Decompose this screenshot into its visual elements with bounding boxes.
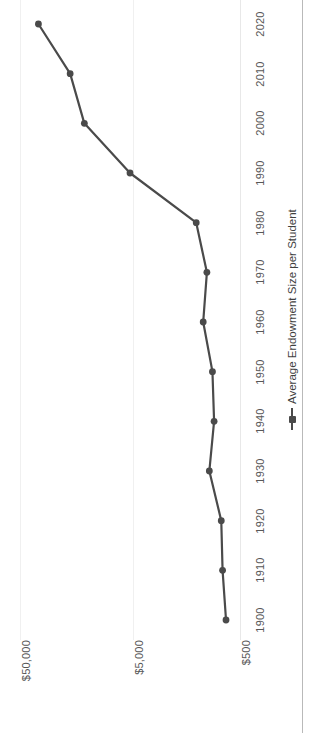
series-polyline — [38, 24, 226, 620]
data-point — [35, 21, 42, 28]
data-point — [218, 517, 225, 524]
data-point — [127, 170, 134, 177]
data-point — [67, 70, 74, 77]
data-point — [200, 319, 207, 326]
data-point — [211, 418, 218, 425]
category-tick-label-1960: 1960 — [254, 309, 266, 334]
value-tick-label-500: $500 — [240, 640, 252, 665]
category-tick-label-1980: 1980 — [254, 210, 266, 235]
category-tick-label-1900: 1900 — [254, 607, 266, 632]
value-axis-labels: $50,000 $5,000 $500 — [0, 640, 260, 710]
data-point — [223, 617, 230, 624]
legend-item-label: Average Endowment Size per Student — [286, 209, 298, 404]
value-tick-label-50000: $50,000 — [20, 640, 32, 681]
line-marker-icon — [287, 408, 297, 430]
chart-frame-border — [302, 0, 303, 733]
category-tick-label-1970: 1970 — [254, 260, 266, 285]
category-tick-label-2020: 2020 — [254, 11, 266, 36]
series-line-layer — [0, 0, 248, 640]
data-point — [203, 269, 210, 276]
category-tick-label-2000: 2000 — [254, 111, 266, 136]
category-tick-label-1940: 1940 — [254, 409, 266, 434]
data-point — [206, 468, 213, 475]
plot-area — [0, 0, 248, 640]
category-tick-label-1990: 1990 — [254, 160, 266, 185]
data-point — [193, 219, 200, 226]
chart-canvas: $50,000 $5,000 $500 19001910192019301940… — [0, 0, 309, 733]
category-tick-label-1930: 1930 — [254, 458, 266, 483]
category-tick-label-2010: 2010 — [254, 61, 266, 86]
category-tick-label-1920: 1920 — [254, 508, 266, 533]
data-point — [209, 368, 216, 375]
data-point — [219, 567, 226, 574]
value-tick-label-5000: $5,000 — [133, 640, 145, 675]
category-tick-label-1950: 1950 — [254, 359, 266, 384]
series-markers — [35, 21, 229, 624]
data-point — [81, 120, 88, 127]
legend-item-average-endowment[interactable]: Average Endowment Size per Student — [286, 209, 298, 430]
category-tick-label-1910: 1910 — [254, 558, 266, 583]
chart-legend: Average Endowment Size per Student — [270, 200, 304, 440]
